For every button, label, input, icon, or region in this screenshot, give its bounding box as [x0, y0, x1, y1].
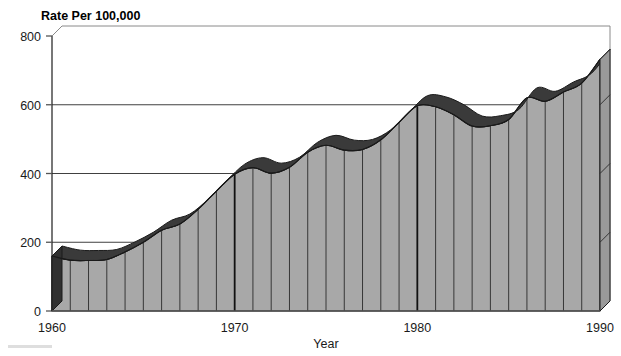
y-tick-label-400: 400 [20, 168, 41, 182]
x-tick-label-1990: 1990 [586, 321, 614, 335]
y-tick-label-800: 800 [20, 30, 41, 44]
x-tick-label-1970: 1970 [221, 321, 249, 335]
y-tick-label-600: 600 [20, 99, 41, 113]
x-tick-label-1980: 1980 [403, 321, 431, 335]
x-tick-label-1960: 1960 [38, 321, 66, 335]
rate-per-100000-area-chart: Rate Per 100,000 800 600 400 200 0 1960 … [0, 0, 621, 356]
x-axis-title: Year [313, 337, 338, 351]
area-right-cap [600, 49, 610, 311]
y-tick-label-200: 200 [20, 236, 41, 250]
area-left-cap [52, 246, 62, 311]
page-edge-artifact [8, 345, 52, 348]
chart-figure: Rate Per 100,000 800 600 400 200 0 1960 … [0, 0, 621, 356]
chart-title: Rate Per 100,000 [41, 9, 140, 23]
y-tick-label-0: 0 [34, 305, 41, 319]
